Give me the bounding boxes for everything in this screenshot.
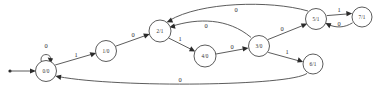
edge-label-5-to-2: 0 bbox=[234, 6, 237, 13]
edge-5-to-2-arrow bbox=[167, 18, 174, 23]
state-node-2-label: 2/1 bbox=[157, 28, 164, 34]
edge-4-to-3-arrow bbox=[242, 46, 248, 51]
state-node-5-label: 5/1 bbox=[313, 16, 320, 22]
edge-3-to-2-path bbox=[172, 21, 251, 37]
state-node-2[interactable]: 2/1 bbox=[149, 20, 171, 42]
edge-label-3-to-6: 1 bbox=[285, 48, 288, 55]
state-node-1-label: 1/0 bbox=[103, 48, 110, 54]
edge-3-to-5 bbox=[268, 23, 308, 39]
edge-1-to-2-arrow bbox=[143, 33, 150, 38]
edge-5-to-7-path bbox=[327, 14, 349, 16]
edge-3-to-6-arrow bbox=[297, 57, 303, 62]
edge-5-to-7-arrow bbox=[346, 11, 352, 16]
edge-label-7-to-5: 0 bbox=[337, 20, 340, 27]
edge-label-0-self: 0 bbox=[44, 42, 47, 49]
state-node-0-label: 0/0 bbox=[43, 68, 50, 74]
state-node-7[interactable]: 7/1 bbox=[352, 7, 372, 27]
state-diagram-canvas: 0 1 0 1 0 0 0 1 0 1 0 0 0/0 1/0 2/1 4/0 bbox=[0, 0, 386, 94]
state-node-1[interactable]: 1/0 bbox=[96, 41, 117, 62]
state-node-6[interactable]: 6/1 bbox=[303, 54, 323, 74]
initial-state-arrow bbox=[8, 68, 36, 73]
edge-label-2-to-4: 1 bbox=[178, 35, 181, 42]
edge-label-5-to-7: 1 bbox=[337, 6, 340, 13]
state-node-3-label: 3/0 bbox=[256, 43, 263, 49]
edge-label-3-to-5: 0 bbox=[280, 25, 283, 32]
edge-6-to-0-arrow bbox=[55, 75, 61, 80]
state-node-4[interactable]: 4/0 bbox=[194, 45, 216, 67]
state-node-3[interactable]: 3/0 bbox=[249, 36, 270, 57]
edge-label-4-to-3: 0 bbox=[230, 43, 233, 50]
state-node-0[interactable]: 0/0 bbox=[36, 61, 57, 82]
state-node-4-label: 4/0 bbox=[202, 53, 209, 59]
edge-label-0-to-1: 1 bbox=[74, 51, 77, 58]
edge-5-to-2-path bbox=[169, 4, 308, 20]
edge-3-to-6-path bbox=[268, 52, 300, 61]
state-node-6-label: 6/1 bbox=[310, 61, 317, 67]
edge-label-1-to-2: 0 bbox=[131, 31, 134, 38]
edge-6-to-0-path bbox=[58, 73, 307, 84]
edge-2-to-4 bbox=[169, 38, 196, 51]
edge-3-to-5-path bbox=[268, 25, 305, 40]
state-node-5[interactable]: 5/1 bbox=[306, 9, 327, 30]
state-node-7-label: 7/1 bbox=[359, 14, 366, 20]
fsm-diagram: 0 1 0 1 0 0 0 1 0 1 0 0 0/0 1/0 2/1 4/0 bbox=[0, 0, 386, 94]
edge-label-6-to-0: 0 bbox=[178, 76, 181, 83]
edge-label-3-to-2: 0 bbox=[204, 22, 207, 29]
